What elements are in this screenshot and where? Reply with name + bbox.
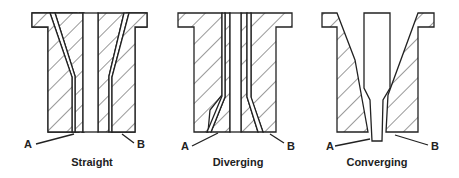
panel-diverging: A B Diverging (178, 13, 295, 168)
label-a: A (181, 140, 189, 152)
panel-converging: A B Converging (322, 13, 439, 168)
leader-b (270, 134, 284, 143)
caption-diverging: Diverging (213, 156, 264, 168)
outer-left (322, 13, 368, 132)
leader-a (335, 139, 370, 146)
central-bore (83, 13, 98, 132)
leader-a (36, 134, 74, 144)
panel-straight: A B Straight (24, 13, 147, 168)
leader-b (122, 134, 134, 143)
caption-straight: Straight (71, 156, 113, 168)
label-b: B (137, 138, 145, 150)
label-b: B (287, 140, 295, 152)
central-bore (230, 13, 241, 132)
leader-b (395, 135, 428, 145)
leader-a (192, 133, 218, 146)
outer-right (386, 13, 434, 132)
label-a: A (24, 138, 32, 150)
caption-converging: Converging (346, 156, 407, 168)
label-a: A (326, 140, 334, 152)
nozzle-diagram: A B Straight A B Diverging A B (0, 0, 459, 178)
label-b: B (431, 140, 439, 152)
